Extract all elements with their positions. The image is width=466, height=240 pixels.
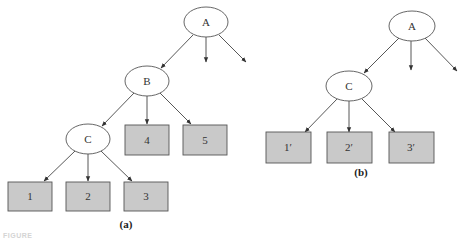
- node-label: 1: [27, 190, 33, 202]
- node-label: 1′: [284, 141, 292, 153]
- node-label: C: [345, 80, 352, 92]
- edge-a-A-right: [219, 35, 246, 62]
- panel-a: A B C 4 5 1 2 3 (a): [8, 7, 246, 231]
- node-label: 2′: [345, 141, 353, 153]
- panel-a-edges: [44, 35, 246, 181]
- leaf-a-2: 2: [66, 182, 110, 211]
- node-a-A: A: [184, 7, 228, 37]
- edge-a-C-1: [44, 151, 75, 181]
- panel-a-label: (a): [120, 218, 133, 231]
- figure-caption-fragment: FIGURE: [3, 232, 32, 239]
- edge-b-C-3p: [362, 99, 395, 132]
- leaf-a-5: 5: [183, 125, 227, 155]
- edge-b-A-right: [425, 38, 457, 71]
- node-b-A: A: [389, 11, 435, 41]
- node-a-B: B: [125, 66, 169, 96]
- node-label: C: [84, 133, 91, 145]
- edge-a-B-C: [102, 93, 134, 126]
- edge-a-A-B: [161, 35, 193, 68]
- leaf-b-3prime: 3′: [389, 132, 434, 163]
- edge-a-B-5: [160, 93, 191, 124]
- node-label: A: [202, 16, 210, 28]
- leaf-a-4: 4: [125, 125, 169, 155]
- node-a-C: C: [66, 124, 110, 154]
- edge-b-C-1p: [305, 99, 337, 132]
- node-b-C: C: [326, 71, 372, 101]
- node-label: 4: [144, 134, 150, 146]
- node-label: B: [143, 75, 150, 87]
- node-label: 3: [143, 190, 149, 202]
- leaf-a-1: 1: [8, 182, 52, 211]
- edge-b-A-C: [364, 38, 399, 73]
- node-label: A: [408, 20, 416, 32]
- node-label: 3′: [407, 141, 415, 153]
- leaf-a-3: 3: [124, 182, 168, 211]
- leaf-b-1prime: 1′: [266, 132, 311, 163]
- node-label: 2: [85, 190, 91, 202]
- panel-b-label: (b): [354, 166, 368, 179]
- diagram-canvas: A B C 4 5 1 2 3 (a): [0, 0, 466, 240]
- panel-b: A C 1′ 2′ 3′ (b): [266, 11, 457, 179]
- tree-diagram-figure: A B C 4 5 1 2 3 (a): [0, 0, 466, 240]
- leaf-b-2prime: 2′: [327, 132, 372, 163]
- edge-a-C-3: [101, 151, 132, 181]
- node-label: 5: [202, 134, 208, 146]
